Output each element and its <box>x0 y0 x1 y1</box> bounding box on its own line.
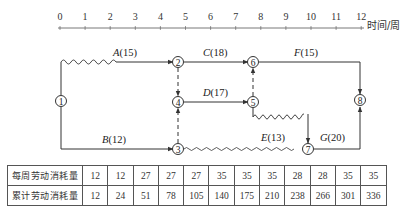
svg-text:8: 8 <box>358 96 363 106</box>
table-row: 累计劳动消耗量12245178105140175210238266301336 <box>8 186 387 206</box>
table-cell: 336 <box>361 186 386 206</box>
activity-F-duration: (15) <box>300 47 318 59</box>
axis-tick-label: 11 <box>331 11 341 22</box>
activity-G-duration: (20) <box>328 132 346 144</box>
table-cell: 51 <box>133 186 158 206</box>
activity-B: B(12) <box>61 107 173 149</box>
activity-E-duration: (13) <box>267 132 285 144</box>
table-cell: 266 <box>310 186 335 206</box>
activity-C: C(18) <box>184 47 248 62</box>
svg-text:1: 1 <box>59 97 64 107</box>
axis-tick-label: 1 <box>83 11 88 22</box>
row-header: 累计劳动消耗量 <box>8 186 83 206</box>
svg-text:B(12): B(12) <box>102 134 126 146</box>
table-cell: 140 <box>209 186 234 206</box>
svg-text:G(20): G(20) <box>320 132 346 144</box>
activity-A: A(15) <box>61 47 173 95</box>
node-2: 2 <box>173 57 184 68</box>
table-cell: 35 <box>234 166 259 186</box>
svg-text:6: 6 <box>251 58 256 68</box>
axis-tick-label: 2 <box>108 11 113 22</box>
activity-A-duration: (15) <box>119 47 137 59</box>
activity-B-duration: (12) <box>108 134 126 146</box>
table-cell: 12 <box>108 166 133 186</box>
node-8: 8 <box>355 95 366 106</box>
activity-E: E(13) <box>253 108 308 144</box>
table-cell: 78 <box>158 186 183 206</box>
svg-text:A(15): A(15) <box>112 47 137 59</box>
svg-text:D(17): D(17) <box>202 87 229 99</box>
table-cell: 28 <box>310 166 335 186</box>
svg-text:7: 7 <box>306 145 311 155</box>
axis-tick-label: 10 <box>306 11 316 22</box>
table-cell: 35 <box>209 166 234 186</box>
activity-C-duration: (18) <box>210 47 228 59</box>
row-header: 每周劳动消耗量 <box>8 166 83 186</box>
table-cell: 210 <box>260 186 285 206</box>
svg-text:2: 2 <box>176 58 181 68</box>
axis-tick-label: 9 <box>283 11 288 22</box>
axis-tick-label: 3 <box>133 11 138 22</box>
table-cell: 27 <box>184 166 209 186</box>
table-cell: 28 <box>285 166 310 186</box>
axis-unit-label: 时间/周 <box>367 19 400 31</box>
axis-tick-label: 6 <box>208 11 213 22</box>
axis-tick-label: 12 <box>356 11 366 22</box>
table-cell: 27 <box>158 166 183 186</box>
axis-tick-label: 7 <box>233 11 238 22</box>
table-cell: 24 <box>108 186 133 206</box>
axis-tick-label: 0 <box>58 11 63 22</box>
svg-text:3: 3 <box>176 145 181 155</box>
axis-tick-label: 8 <box>258 11 263 22</box>
node-1: 1 <box>56 96 67 107</box>
svg-text:E(13): E(13) <box>260 132 285 144</box>
activity-F: F(15) <box>259 47 360 94</box>
table-cell: 105 <box>184 186 209 206</box>
table-cell: 238 <box>285 186 310 206</box>
labor-consumption-table: 每周劳动消耗量121227272735353528283535累计劳动消耗量12… <box>7 165 387 206</box>
table-cell: 12 <box>83 166 108 186</box>
node-3: 3 <box>173 144 184 155</box>
node-4: 4 <box>173 97 184 108</box>
free-float-wave-3-7 <box>184 148 294 151</box>
node-7: 7 <box>303 144 314 155</box>
table-cell: 35 <box>260 166 285 186</box>
table-cell: 175 <box>234 186 259 206</box>
activity-G: G(20) <box>314 107 360 149</box>
svg-text:5: 5 <box>251 98 256 108</box>
table-cell: 35 <box>361 166 386 186</box>
svg-text:4: 4 <box>176 98 181 108</box>
activity-D-duration: (17) <box>211 87 229 99</box>
table-cell: 301 <box>335 186 360 206</box>
activity-D: D(17) <box>184 87 248 102</box>
time-scaled-network-diagram: 0123456789101112 时间/周 A(15) B(12) C(18) … <box>0 0 414 160</box>
axis-tick-label: 4 <box>158 11 163 22</box>
node-6: 6 <box>248 57 259 68</box>
time-axis: 0123456789101112 时间/周 <box>58 11 401 31</box>
node-5: 5 <box>248 97 259 108</box>
svg-text:F(15): F(15) <box>293 47 318 59</box>
axis-tick-label: 5 <box>183 11 188 22</box>
table-cell: 27 <box>133 166 158 186</box>
table-cell: 35 <box>335 166 360 186</box>
table-cell: 12 <box>83 186 108 206</box>
table-row: 每周劳动消耗量121227272735353528283535 <box>8 166 387 186</box>
svg-text:C(18): C(18) <box>203 47 228 59</box>
